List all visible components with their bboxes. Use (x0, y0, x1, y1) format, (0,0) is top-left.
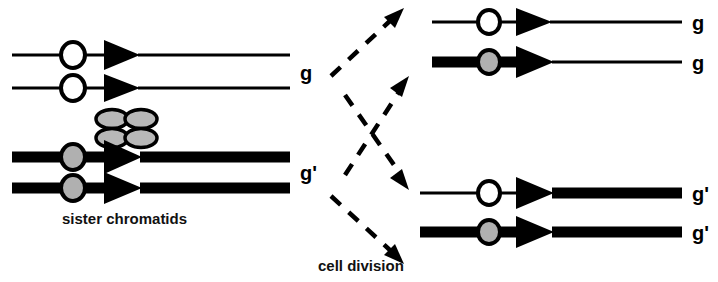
right-bottom-chromatid-2-centromere (478, 220, 500, 244)
division-arrow-3-head (390, 169, 409, 190)
division-arrow-2-head (390, 76, 409, 97)
chiasma-lobe-top-right (125, 110, 157, 129)
right-top-daughter-cell: g g (432, 8, 704, 78)
right-bottom-chromatid-2-arrowhead (516, 216, 554, 248)
division-arrow-2 (345, 76, 409, 175)
left-chromatid-1-arrowhead (104, 40, 140, 70)
right-top-chromatid-1-centromere (478, 10, 500, 34)
division-arrows-group: cell division (318, 8, 409, 274)
left-chromatid-4 (12, 172, 290, 204)
left-chromatid-2 (12, 74, 290, 102)
left-allele-label-top: g (300, 62, 312, 84)
left-chromatid-4-arrowhead (104, 172, 142, 204)
right-top-chromatid-2-arrowhead (516, 46, 554, 78)
right-top-chromatid-1-arrowhead (516, 8, 552, 36)
right-top-chromatid-2 (432, 46, 682, 78)
division-arrow-4-shaft (331, 196, 392, 252)
left-chromatid-3-centromere (61, 144, 85, 170)
left-chromatid-1 (12, 40, 290, 70)
cell-division-caption: cell division (318, 257, 404, 274)
division-arrow-3 (345, 95, 409, 190)
right-bottom-daughter-cell: g' g' (420, 177, 709, 248)
sister-chromatids-caption: sister chromatids (62, 210, 187, 227)
right-bottom-chromatid-1 (420, 177, 682, 209)
right-bottom-allele-label-1: g' (692, 183, 709, 205)
left-chromatid-2-centromere (61, 75, 85, 101)
left-chromatid-2-arrowhead (104, 74, 140, 102)
right-top-allele-label-1: g (692, 12, 704, 34)
division-arrow-1-shaft (331, 19, 392, 76)
right-bottom-allele-label-2: g' (692, 222, 709, 244)
chromosome-diagram: g (0, 0, 718, 282)
right-bottom-chromatid-1-centromere (478, 181, 500, 205)
right-top-allele-label-2: g (692, 52, 704, 74)
diagram-canvas: g (0, 0, 718, 282)
left-allele-label-bottom: g' (300, 162, 317, 184)
left-chromatid-1-centromere (61, 42, 85, 68)
chiasma-lobe-top-left (96, 110, 128, 129)
right-bottom-chromatid-1-arrowhead (516, 177, 554, 209)
right-top-chromatid-1 (432, 8, 682, 36)
division-arrow-4 (331, 196, 404, 264)
left-chromatid-4-centromere (61, 175, 85, 201)
division-arrow-1 (331, 8, 404, 76)
chiasma-lobe-bottom-right (125, 129, 157, 148)
right-top-chromatid-2-centromere (478, 50, 500, 74)
right-bottom-chromatid-2 (420, 216, 682, 248)
left-cell-group: g (12, 40, 317, 227)
